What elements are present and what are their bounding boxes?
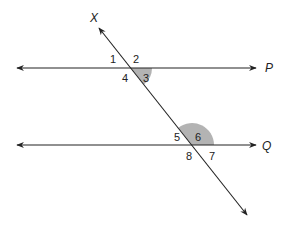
angle-label-8: 8 bbox=[186, 150, 192, 162]
label-q: Q bbox=[262, 139, 271, 153]
angle-label-3: 3 bbox=[143, 72, 149, 84]
angle-label-6: 6 bbox=[195, 131, 201, 143]
label-x: X bbox=[89, 11, 99, 25]
label-p: P bbox=[265, 61, 273, 75]
diagram-svg: X P Q 1 2 3 4 5 6 7 8 bbox=[0, 0, 287, 233]
diagram-canvas: X P Q 1 2 3 4 5 6 7 8 bbox=[0, 0, 287, 233]
angle-label-2: 2 bbox=[133, 53, 139, 65]
angle-label-5: 5 bbox=[174, 131, 180, 143]
angle-label-7: 7 bbox=[209, 150, 215, 162]
angle-label-1: 1 bbox=[110, 53, 116, 65]
transversal-x bbox=[99, 28, 247, 215]
angle-label-4: 4 bbox=[122, 72, 128, 84]
